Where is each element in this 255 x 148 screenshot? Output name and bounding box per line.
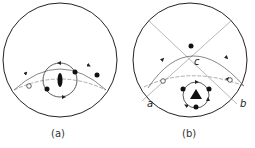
label-b: b bbox=[240, 98, 246, 109]
pole-open bbox=[228, 78, 233, 83]
two-fold-axis-icon bbox=[58, 73, 63, 87]
primitive-circle-a bbox=[3, 3, 117, 117]
pole-filled bbox=[73, 70, 78, 75]
pole-filled bbox=[194, 105, 199, 110]
pole-filled bbox=[181, 87, 186, 92]
stereogram-b: a b c bbox=[133, 3, 247, 117]
arrow-icon bbox=[186, 106, 187, 107]
pole-open bbox=[27, 84, 32, 89]
arrow-icon bbox=[226, 57, 227, 58]
caption-a: (a) bbox=[51, 128, 65, 139]
pole-filled bbox=[207, 87, 212, 92]
arrow-icon bbox=[88, 65, 89, 66]
caption-b: (b) bbox=[182, 128, 196, 139]
pole-filled bbox=[189, 44, 194, 49]
mirror-line bbox=[142, 20, 232, 101]
pole-open bbox=[161, 79, 166, 84]
stereogram-figure: a b c bbox=[0, 0, 255, 148]
arrow-icon bbox=[162, 59, 163, 60]
three-fold-axis-icon bbox=[190, 89, 202, 99]
stereogram-a bbox=[3, 3, 117, 117]
mirror-line bbox=[148, 20, 237, 104]
pole-filled bbox=[95, 73, 100, 78]
arrow-icon bbox=[25, 73, 26, 74]
pole-filled bbox=[45, 87, 50, 92]
label-a: a bbox=[147, 98, 153, 109]
label-c: c bbox=[194, 56, 200, 67]
